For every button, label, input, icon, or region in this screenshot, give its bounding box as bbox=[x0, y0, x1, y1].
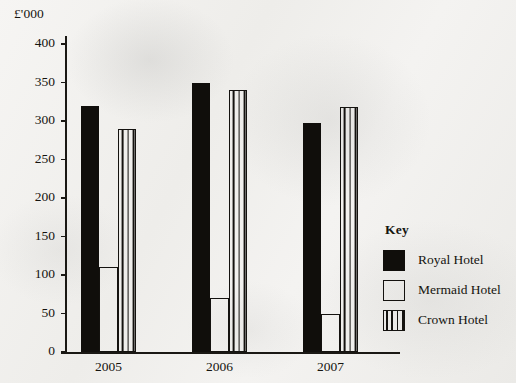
bar-2006-mermaid-hotel bbox=[210, 298, 229, 352]
y-axis-line bbox=[65, 36, 67, 353]
bar-2006-royal-hotel bbox=[192, 83, 211, 353]
x-axis-line bbox=[61, 352, 400, 354]
legend-swatch-solid bbox=[383, 250, 405, 271]
y-axis-tick-label: 400 bbox=[10, 35, 55, 51]
bar-2007-crown-hotel bbox=[340, 107, 359, 352]
y-axis-tick-label: 250 bbox=[10, 151, 55, 167]
y-axis-tick-mark bbox=[61, 274, 67, 275]
legend: Key Royal HotelMermaid HotelCrown Hotel bbox=[383, 222, 513, 337]
y-axis-tick-label: 50 bbox=[10, 305, 55, 321]
bar-2005-mermaid-hotel bbox=[99, 267, 118, 352]
legend-item-crown-hotel: Crown Hotel bbox=[383, 307, 513, 333]
y-axis-tick-mark bbox=[61, 120, 67, 121]
x-axis-tick-label: 2005 bbox=[69, 359, 149, 375]
legend-item-royal-hotel: Royal Hotel bbox=[383, 247, 513, 273]
legend-item-label: Crown Hotel bbox=[418, 312, 488, 328]
y-axis-tick-label: 150 bbox=[10, 228, 55, 244]
y-axis-tick-mark bbox=[61, 313, 67, 314]
legend-title: Key bbox=[385, 222, 513, 238]
legend-entries: Royal HotelMermaid HotelCrown Hotel bbox=[383, 247, 513, 333]
y-axis-tick-label: 300 bbox=[10, 112, 55, 128]
legend-item-mermaid-hotel: Mermaid Hotel bbox=[383, 277, 513, 303]
y-axis-tick-mark bbox=[61, 159, 67, 160]
y-axis-tick-label: 0 bbox=[10, 343, 55, 359]
bar-chart: £'000 050100150200250300350400 200520062… bbox=[0, 0, 516, 383]
x-axis-tick-label: 2007 bbox=[291, 359, 371, 375]
legend-swatch-striped bbox=[383, 310, 405, 331]
y-axis-tick-mark bbox=[61, 197, 67, 198]
y-axis-unit-label: £'000 bbox=[14, 6, 44, 22]
bar-2005-royal-hotel bbox=[81, 106, 100, 352]
y-axis-tick-label: 200 bbox=[10, 189, 55, 205]
y-axis-tick-label: 100 bbox=[10, 266, 55, 282]
y-axis-tick-mark bbox=[61, 82, 67, 83]
legend-swatch-open bbox=[383, 280, 405, 301]
x-axis-tick-label: 2006 bbox=[180, 359, 260, 375]
y-axis-tick-mark bbox=[61, 236, 67, 237]
bar-2007-mermaid-hotel bbox=[321, 314, 340, 353]
legend-item-label: Royal Hotel bbox=[418, 252, 484, 268]
bar-2005-crown-hotel bbox=[118, 129, 137, 352]
legend-item-label: Mermaid Hotel bbox=[418, 282, 501, 298]
bar-2006-crown-hotel bbox=[229, 90, 248, 352]
y-axis-tick-mark bbox=[61, 43, 67, 44]
y-axis-tick-label: 350 bbox=[10, 74, 55, 90]
y-axis-tick-mark bbox=[61, 351, 67, 352]
bar-2007-royal-hotel bbox=[303, 123, 322, 352]
